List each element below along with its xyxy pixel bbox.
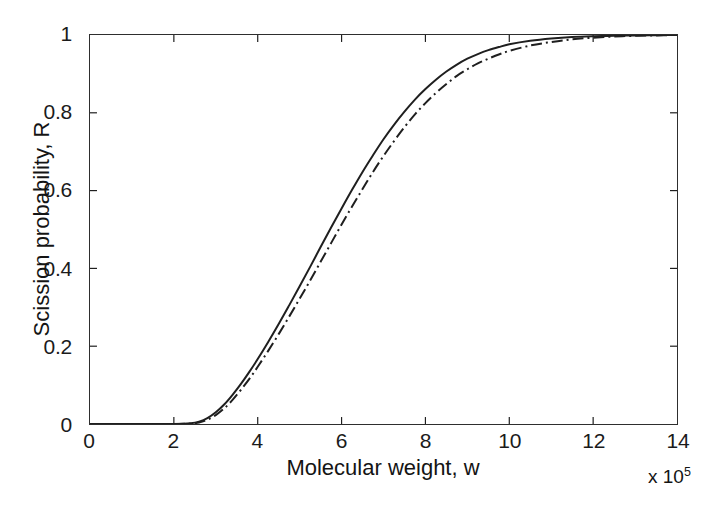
y-tick-marks — [90, 113, 677, 346]
plot-canvas — [90, 35, 677, 424]
y-axis-title: Scission probability, R — [29, 29, 55, 429]
x-tick-label: 12 — [582, 429, 605, 453]
x-axis-title: Molecular weight, w — [286, 455, 479, 481]
x-tick-label: 6 — [336, 429, 347, 453]
series-dash-dot-curve — [90, 35, 677, 424]
plot-area — [89, 34, 678, 425]
x-tick-marks — [174, 35, 593, 424]
x-axis-multiplier: x 105 — [648, 466, 691, 488]
series-solid-curve — [90, 35, 677, 424]
x-tick-label: 4 — [252, 429, 263, 453]
x-tick-label: 0 — [83, 429, 94, 453]
x-tick-label: 2 — [167, 429, 178, 453]
x-tick-label: 10 — [498, 429, 521, 453]
x-tick-label: 14 — [667, 429, 690, 453]
y-tick-label: 1 — [61, 22, 72, 46]
x-tick-label: 8 — [420, 429, 431, 453]
y-tick-label: 0 — [61, 413, 72, 437]
data-series-group — [90, 35, 677, 424]
x-axis-multiplier-base: x 10 — [648, 466, 684, 487]
x-axis-multiplier-exponent: 5 — [684, 465, 691, 479]
figure-canvas: 02468101214 00.20.40.60.81 Molecular wei… — [0, 0, 726, 510]
